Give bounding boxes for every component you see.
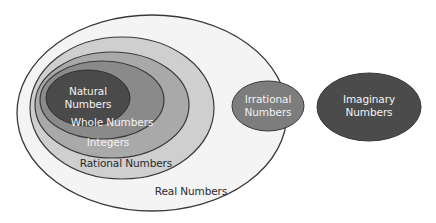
- rational-numbers-label: Rational Numbers: [80, 157, 172, 170]
- natural-numbers-label-line1: Natural: [65, 85, 112, 98]
- irrational-numbers-label-line1: Irrational: [245, 93, 292, 106]
- whole-numbers-label: Whole Numbers: [71, 116, 154, 129]
- natural-numbers-label: Natural Numbers: [65, 85, 112, 111]
- imaginary-numbers-label-line2: Numbers: [343, 106, 395, 119]
- imaginary-numbers-label: Imaginary Numbers: [343, 93, 395, 119]
- natural-numbers-label-line2: Numbers: [65, 98, 112, 111]
- irrational-numbers-label: Irrational Numbers: [245, 93, 292, 119]
- real-numbers-label: Real Numbers: [155, 185, 227, 198]
- integers-label: Integers: [87, 136, 129, 149]
- irrational-numbers-label-line2: Numbers: [245, 106, 292, 119]
- imaginary-numbers-label-line1: Imaginary: [343, 93, 395, 106]
